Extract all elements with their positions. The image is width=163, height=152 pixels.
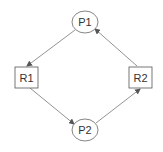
edge-p1-r1	[27, 30, 75, 66]
edge-r2-p1	[95, 29, 137, 66]
node-r1-label: R1	[19, 72, 33, 84]
node-p1-label: P1	[78, 16, 91, 28]
node-r1: R1	[15, 67, 38, 88]
edge-p2-r2	[96, 89, 140, 123]
node-p2: P2	[72, 119, 98, 141]
node-p1: P1	[72, 11, 98, 33]
node-p2-label: P2	[78, 124, 91, 136]
node-r2-label: R2	[133, 72, 147, 84]
resource-graph: P1 R1 R2 P2	[0, 0, 163, 152]
node-r2: R2	[129, 67, 152, 88]
edge-r1-p2	[30, 88, 74, 124]
